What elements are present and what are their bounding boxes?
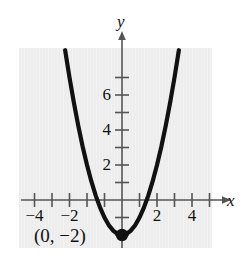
y-tick-label-6: 6 [95,85,111,105]
figure-root: ) [0,0,251,260]
x-axis-label: x [227,191,235,211]
y-axis-label: y [117,12,125,32]
y-axis [118,31,126,248]
vertex-annotation-label: (0, −2) [34,225,86,247]
x-tick-label-4: 4 [184,206,200,226]
y-axis-arrowhead [118,31,126,40]
y-tick-label-2: 2 [95,155,111,175]
x-tick-label-minus4: −4 [22,206,47,226]
y-tick-label-4: 4 [95,120,111,140]
vertex-point-marker [116,229,128,241]
x-tick-label-minus2: −2 [57,206,82,226]
x-tick-label-2: 2 [149,206,165,226]
